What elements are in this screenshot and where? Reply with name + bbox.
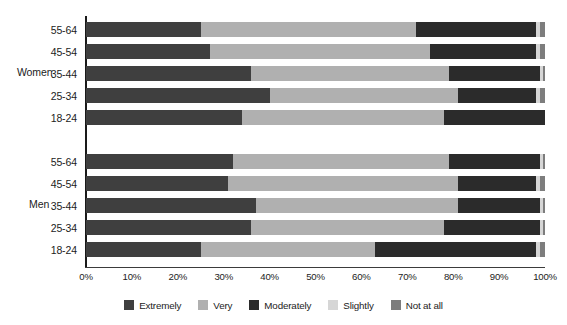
- legend-label: Slightly: [343, 300, 373, 311]
- chart-legend: ExtremelyVeryModeratelySlightlyNot at al…: [0, 296, 567, 314]
- bar-segment: [242, 110, 444, 125]
- bar-row-label: 18-24: [51, 243, 77, 255]
- bar-segment: [458, 176, 536, 191]
- bar-segment: [416, 22, 535, 37]
- legend-item[interactable]: Very: [198, 300, 232, 311]
- group-label-women: Women: [17, 66, 18, 78]
- x-tick-label: 10%: [123, 271, 142, 282]
- bar-row: 45-54: [86, 176, 545, 191]
- legend-item[interactable]: Not at all: [391, 300, 443, 311]
- bar-segment: [256, 198, 458, 213]
- bar-segment: [251, 66, 448, 81]
- x-tick-label: 70%: [398, 271, 417, 282]
- bar-segment: [543, 220, 545, 235]
- legend-swatch-icon: [328, 300, 338, 310]
- bar-segment: [458, 198, 541, 213]
- bar-segment: [210, 44, 430, 59]
- legend-label: Not at all: [406, 300, 443, 311]
- legend-item[interactable]: Extremely: [124, 300, 181, 311]
- bar-row-label: 55-64: [51, 23, 77, 35]
- plot-area: 55-6445-5435-4425-3418-2455-6445-5435-44…: [86, 16, 545, 268]
- legend-label: Moderately: [264, 300, 311, 311]
- bar-segment: [543, 66, 545, 81]
- bar-segment: [540, 44, 545, 59]
- x-tick-label: 0%: [79, 271, 92, 282]
- bar-segment: [458, 88, 536, 103]
- x-tick-label: 100%: [533, 271, 557, 282]
- x-axis-tick-labels: 0%10%20%30%40%50%60%70%80%90%100%: [86, 269, 545, 285]
- legend-swatch-icon: [391, 300, 401, 310]
- bar-row: 55-64: [86, 154, 545, 169]
- x-tick-label: 30%: [214, 271, 233, 282]
- bar-row-label: 35-44: [51, 67, 77, 79]
- bar-segment: [444, 220, 540, 235]
- bar-row-label: 25-34: [51, 89, 77, 101]
- bar-segment: [86, 44, 210, 59]
- bar-row-label: 18-24: [51, 111, 77, 123]
- bar-row-label: 45-54: [51, 45, 77, 57]
- bar-segment: [540, 88, 545, 103]
- bar-row-label: 45-54: [51, 177, 77, 189]
- bar-segment: [233, 154, 449, 169]
- bar-segment: [444, 110, 545, 125]
- bar-row-label: 35-44: [51, 199, 77, 211]
- legend-swatch-icon: [198, 300, 208, 310]
- bar-row: 18-24: [86, 242, 545, 257]
- x-tick-label: 20%: [168, 271, 187, 282]
- bar-row: 18-24: [86, 110, 545, 125]
- bar-segment: [201, 22, 417, 37]
- bar-segment: [86, 242, 201, 257]
- bar-segment: [201, 242, 375, 257]
- bar-row: 35-44: [86, 198, 545, 213]
- bar-segment: [86, 66, 251, 81]
- stacked-bar-chart: Women Men 55-6445-5435-4425-3418-2455-64…: [0, 0, 567, 325]
- bar-segment: [375, 242, 536, 257]
- bar-segment: [86, 198, 256, 213]
- bar-row: 45-54: [86, 44, 545, 59]
- bar-row-label: 25-34: [51, 221, 77, 233]
- bar-segment: [430, 44, 536, 59]
- bar-row: 25-34: [86, 220, 545, 235]
- bar-segment: [251, 220, 444, 235]
- x-tick-label: 90%: [490, 271, 509, 282]
- bar-segment: [270, 88, 458, 103]
- legend-label: Very: [213, 300, 232, 311]
- bar-segment: [540, 22, 545, 37]
- bar-segment: [449, 154, 541, 169]
- bar-row-label: 55-64: [51, 155, 77, 167]
- x-tick-label: 60%: [352, 271, 371, 282]
- bar-row: 55-64: [86, 22, 545, 37]
- bar-segment: [540, 242, 545, 257]
- bar-segment: [449, 66, 541, 81]
- bar-segment: [86, 88, 270, 103]
- legend-item[interactable]: Moderately: [249, 300, 311, 311]
- bar-segment: [543, 154, 545, 169]
- bar-row: 25-34: [86, 88, 545, 103]
- legend-swatch-icon: [249, 300, 259, 310]
- bar-segment: [86, 22, 201, 37]
- legend-label: Extremely: [139, 300, 181, 311]
- x-tick-label: 50%: [306, 271, 325, 282]
- x-tick-label: 80%: [444, 271, 463, 282]
- bar-segment: [86, 110, 242, 125]
- bar-segment: [86, 220, 251, 235]
- bar-row: 35-44: [86, 66, 545, 81]
- legend-swatch-icon: [124, 300, 134, 310]
- bar-segment: [86, 176, 228, 191]
- x-tick-label: 40%: [260, 271, 279, 282]
- legend-item[interactable]: Slightly: [328, 300, 373, 311]
- bar-segment: [86, 154, 233, 169]
- bar-segment: [543, 198, 545, 213]
- bar-segment: [228, 176, 458, 191]
- bar-segment: [540, 176, 545, 191]
